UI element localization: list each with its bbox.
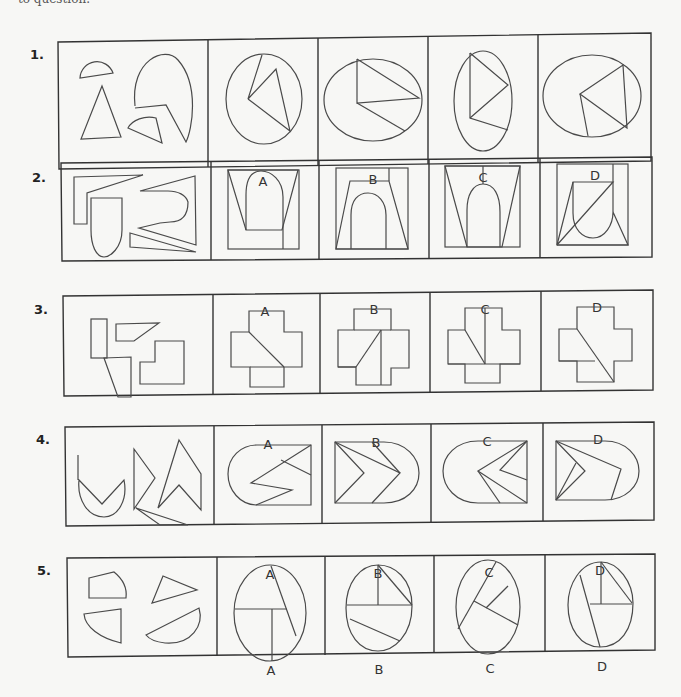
option-3c-figure[interactable] xyxy=(448,308,520,383)
option-3b-figure[interactable] xyxy=(338,309,409,385)
option-5b-figure[interactable] xyxy=(346,565,412,651)
question-2-pieces xyxy=(74,175,196,257)
question-4-pieces xyxy=(78,440,201,525)
option-4c-figure[interactable] xyxy=(443,441,527,503)
option-5c-figure[interactable] xyxy=(456,560,520,654)
option-1c-figure[interactable] xyxy=(454,51,512,151)
question-2-strip xyxy=(61,157,652,261)
question-4-strip xyxy=(65,422,654,526)
question-3-pieces xyxy=(91,319,184,397)
puzzle-figures xyxy=(0,0,681,697)
option-1b-figure[interactable] xyxy=(324,59,422,141)
option-5a-figure[interactable] xyxy=(234,565,306,661)
option-3d-figure[interactable] xyxy=(559,307,632,382)
option-4a-figure[interactable] xyxy=(228,445,311,505)
question-4-frame xyxy=(65,422,654,526)
option-1a-figure[interactable] xyxy=(226,54,302,144)
question-3-frame xyxy=(63,290,653,396)
option-4b-figure[interactable] xyxy=(335,442,419,503)
question-3-strip xyxy=(63,290,653,397)
question-5-strip xyxy=(67,554,655,661)
option-3a-figure[interactable] xyxy=(231,311,302,387)
question-5-pieces xyxy=(84,572,200,643)
option-2c-figure[interactable] xyxy=(445,166,520,247)
option-1d-figure[interactable] xyxy=(543,55,641,137)
option-4d-figure[interactable] xyxy=(556,441,639,500)
question-1-strip xyxy=(58,33,651,169)
option-2d-figure[interactable] xyxy=(557,164,628,245)
option-5d-figure[interactable] xyxy=(568,562,633,647)
question-1-pieces xyxy=(80,54,193,143)
option-2b-figure[interactable] xyxy=(336,168,408,249)
question-1-frame xyxy=(58,33,651,169)
option-2a-figure[interactable] xyxy=(228,170,299,249)
